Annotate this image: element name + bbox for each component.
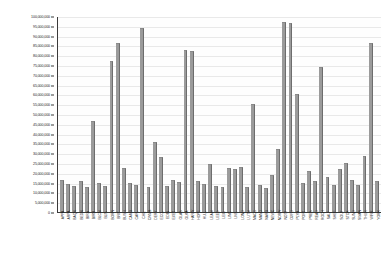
y-axis-tick-mark — [51, 85, 54, 86]
bar — [369, 43, 373, 212]
bar — [239, 167, 243, 212]
y-axis-tick-label: 5,000,000 — [35, 201, 50, 205]
bar — [147, 187, 151, 212]
y-axis-tick-label: 65,000,000 — [33, 84, 50, 88]
y-axis-tick-mark — [51, 56, 54, 57]
y-axis-tick-mark — [51, 36, 54, 37]
bar — [221, 187, 225, 212]
bar — [332, 185, 336, 212]
y-axis-tick-mark — [51, 95, 54, 96]
bar — [159, 157, 163, 212]
bar — [177, 182, 181, 212]
bar — [258, 185, 262, 212]
bar — [350, 180, 354, 212]
y-axis-tick-label: 45,000,000 — [33, 123, 50, 127]
bar — [245, 187, 249, 212]
y-axis-tick-label: 100,000,000 — [31, 15, 50, 19]
y-axis-tick-label: 95,000,000 — [33, 25, 50, 29]
bar-series — [58, 17, 381, 212]
bar — [110, 61, 114, 212]
y-axis-tick-mark — [51, 154, 54, 155]
bar — [282, 22, 286, 212]
y-axis-tick-mark — [51, 164, 54, 165]
bar — [276, 149, 280, 212]
y-axis-tick-mark — [51, 213, 54, 214]
y-axis-tick-mark — [51, 26, 54, 27]
bar — [301, 183, 305, 212]
x-axis-tick-label: YORK — [377, 210, 381, 220]
bar — [72, 186, 76, 212]
y-axis-tick-mark — [51, 105, 54, 106]
bar — [103, 186, 107, 212]
y-axis-tick-mark — [51, 183, 54, 184]
y-axis-tick-label: 30,000,000 — [33, 152, 50, 156]
y-axis-tick-label: 55,000,000 — [33, 103, 50, 107]
bar — [251, 104, 255, 212]
bar — [66, 184, 70, 212]
bar — [196, 181, 200, 212]
bar — [85, 187, 89, 212]
plot-area — [57, 17, 381, 213]
bar — [165, 186, 169, 212]
y-axis-tick-mark — [51, 66, 54, 67]
y-axis-tick-mark — [51, 193, 54, 194]
bar — [190, 51, 194, 212]
y-axis-tick-label: 0 — [48, 211, 50, 215]
y-axis-tick-mark — [51, 46, 54, 47]
bar — [264, 188, 268, 212]
y-axis-tick-mark — [51, 75, 54, 76]
bar — [122, 168, 126, 212]
bar-chart: 100,000,00095,000,00090,000,00085,000,00… — [0, 0, 387, 255]
bar — [171, 180, 175, 212]
x-axis: APPAARPABAQNBEDNBIRABIRMBLCNBLISBORNBRIT… — [57, 214, 381, 254]
bar — [97, 183, 101, 212]
bar — [134, 185, 138, 212]
y-axis-tick-label: 10,000,000 — [33, 191, 50, 195]
bar — [375, 181, 379, 212]
y-axis-tick-mark — [51, 134, 54, 135]
y-axis-tick-label: 40,000,000 — [33, 133, 50, 137]
bar-slot — [374, 17, 380, 212]
bar — [153, 142, 157, 212]
y-axis-tick-label: 35,000,000 — [33, 142, 50, 146]
bar — [233, 169, 237, 212]
x-axis-tick: YORK — [374, 214, 380, 254]
bar — [289, 23, 293, 212]
bar — [227, 168, 231, 212]
y-axis-tick-mark — [51, 203, 54, 204]
bar — [338, 169, 342, 212]
bar — [270, 175, 274, 212]
bar — [356, 185, 360, 212]
bar — [326, 177, 330, 212]
bar — [202, 184, 206, 212]
bar — [140, 28, 144, 212]
y-axis-tick-label: 90,000,000 — [33, 35, 50, 39]
bar — [208, 164, 212, 212]
bar — [116, 43, 120, 212]
bar — [319, 67, 323, 212]
y-axis-tick-label: 75,000,000 — [33, 64, 50, 68]
y-axis-tick-mark — [51, 115, 54, 116]
bar — [60, 180, 64, 212]
y-axis-tick-label: 50,000,000 — [33, 113, 50, 117]
y-axis-tick-label: 20,000,000 — [33, 172, 50, 176]
y-axis-tick-label: 15,000,000 — [33, 182, 50, 186]
bar — [79, 181, 83, 212]
y-axis-tick-mark — [51, 124, 54, 125]
y-axis-tick-label: 25,000,000 — [33, 162, 50, 166]
y-axis-tick-mark — [51, 17, 54, 18]
y-axis: 100,000,00095,000,00090,000,00085,000,00… — [0, 17, 54, 213]
bar — [295, 94, 299, 212]
bar — [128, 183, 132, 212]
bar — [184, 50, 188, 212]
y-axis-tick-label: 85,000,000 — [33, 44, 50, 48]
bar — [91, 121, 95, 212]
bar — [307, 171, 311, 212]
y-axis-tick-mark — [51, 144, 54, 145]
bar — [214, 186, 218, 212]
y-axis-tick-label: 80,000,000 — [33, 54, 50, 58]
y-axis-tick-label: 60,000,000 — [33, 93, 50, 97]
bar — [313, 181, 317, 212]
y-axis-tick-mark — [51, 173, 54, 174]
y-axis-tick-label: 70,000,000 — [33, 74, 50, 78]
